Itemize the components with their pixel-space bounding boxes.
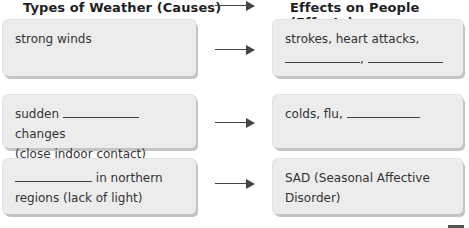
row-arrow-1 (215, 45, 255, 55)
cause-text: strong winds (15, 32, 92, 46)
fill-in-blank[interactable] (368, 50, 443, 63)
arrow-shaft (215, 183, 247, 184)
fill-in-blank[interactable] (285, 50, 360, 63)
effect-text: colds, flu, (285, 107, 343, 121)
effect-box-2: colds, flu, (273, 95, 463, 148)
arrow-shaft (215, 122, 247, 123)
clipped-glyph (448, 225, 464, 228)
cause-box-2: sudden changes (close indoor contact) (3, 95, 196, 148)
arrow-right-icon (246, 118, 255, 128)
cause-line-1: in northern (15, 168, 184, 188)
header-arrow (215, 1, 255, 11)
fill-in-blank[interactable] (15, 169, 92, 182)
arrow-right-icon (246, 45, 255, 55)
arrow-shaft (215, 5, 247, 6)
effect-box-1: strokes, heart attacks, , (273, 20, 463, 76)
cause-line-1: sudden changes (15, 104, 184, 144)
effect-box-3: SAD (Seasonal Affective Disorder) (273, 159, 463, 214)
row-arrow-2 (215, 118, 255, 128)
cause-box-3: in northern regions (lack of light) (3, 159, 196, 214)
page-number-fragment (448, 224, 464, 228)
cause-prefix: sudden (15, 107, 59, 121)
fill-in-blank[interactable] (63, 105, 139, 118)
effect-line-1: SAD (Seasonal Affective (285, 168, 451, 188)
effect-text: strokes, heart attacks, (285, 29, 451, 49)
arrow-shaft (215, 49, 247, 50)
header-causes: Types of Weather (Causes) (23, 0, 221, 15)
arrow-right-icon (246, 179, 255, 189)
row-arrow-3 (215, 179, 255, 189)
cause-suffix: in northern (96, 171, 163, 185)
cause-line-2: regions (lack of light) (15, 188, 184, 208)
fill-in-blank[interactable] (347, 105, 420, 118)
blank-separator: , (360, 52, 364, 66)
effect-blanks-line: , (285, 49, 451, 69)
cause-suffix: changes (15, 127, 65, 141)
effect-line-2: Disorder) (285, 188, 451, 208)
arrow-right-icon (246, 1, 255, 11)
cause-box-1: strong winds (3, 20, 196, 76)
